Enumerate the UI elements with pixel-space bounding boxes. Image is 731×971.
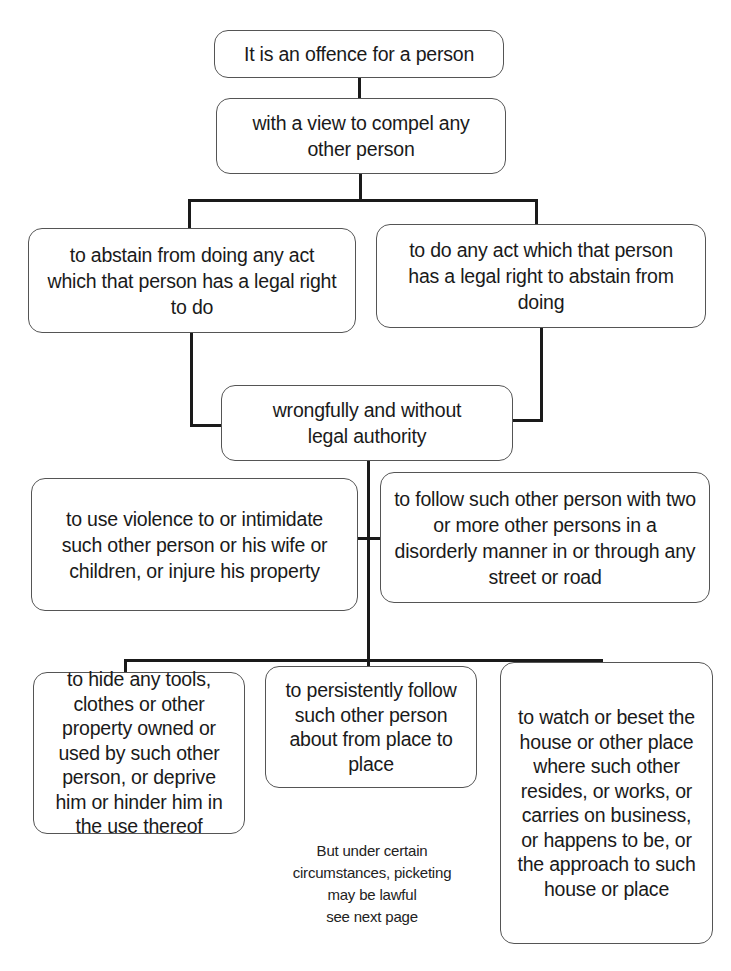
- note-line: see next page: [262, 906, 482, 928]
- node-text: It is an offence for a person: [244, 41, 474, 67]
- node-offence: It is an offence for a person: [214, 30, 504, 78]
- connector-branch-n3: [188, 199, 191, 229]
- node-text: with a view to compel any other person: [241, 110, 481, 162]
- node-hide-tools: to hide any tools, clothes or other prop…: [33, 672, 245, 834]
- connector-n3-n5: [190, 333, 193, 427]
- node-compel: with a view to compel any other person: [216, 98, 506, 174]
- connector-n4-n5: [540, 328, 543, 421]
- node-text: to persistently follow such other person…: [278, 678, 464, 776]
- connector-n3-n5-h: [190, 424, 223, 427]
- node-persistently-follow: to persistently follow such other person…: [265, 666, 477, 788]
- node-text: to follow such other person with two or …: [391, 486, 699, 590]
- node-violence: to use violence to or intimidate such ot…: [31, 478, 358, 611]
- node-abstain: to abstain from doing any act which that…: [28, 228, 356, 333]
- node-do-act: to do any act which that person has a le…: [376, 224, 706, 328]
- node-wrongfully: wrongfully and without legal authority: [221, 385, 513, 461]
- offence-flowchart: It is an offence for a person with a vie…: [0, 0, 731, 971]
- picketing-note: But under certain circumstances, picketi…: [262, 840, 482, 928]
- note-line: circumstances, picketing: [262, 862, 482, 884]
- node-text: wrongfully and without legal authority: [262, 397, 472, 449]
- node-watch-beset: to watch or beset the house or other pla…: [500, 662, 713, 944]
- note-line: may be lawful: [262, 884, 482, 906]
- node-text: to do any act which that person has a le…: [407, 237, 675, 315]
- node-text: to use violence to or intimidate such ot…: [50, 506, 339, 584]
- note-line: But under certain: [262, 840, 482, 862]
- branch-horizontal-1: [188, 199, 537, 202]
- node-follow-disorderly: to follow such other person with two or …: [380, 472, 710, 603]
- node-text: to watch or beset the house or other pla…: [513, 705, 700, 901]
- connector-n1-n2: [358, 78, 361, 99]
- trunk-vertical: [367, 460, 370, 662]
- connector-n4-n5-h: [510, 419, 543, 422]
- connector-n2-branch: [359, 174, 362, 201]
- node-text: to hide any tools, clothes or other prop…: [48, 667, 230, 839]
- node-text: to abstain from doing any act which that…: [45, 242, 339, 320]
- connector-trunk-n6: [357, 537, 368, 540]
- connector-branch-n4: [535, 199, 538, 225]
